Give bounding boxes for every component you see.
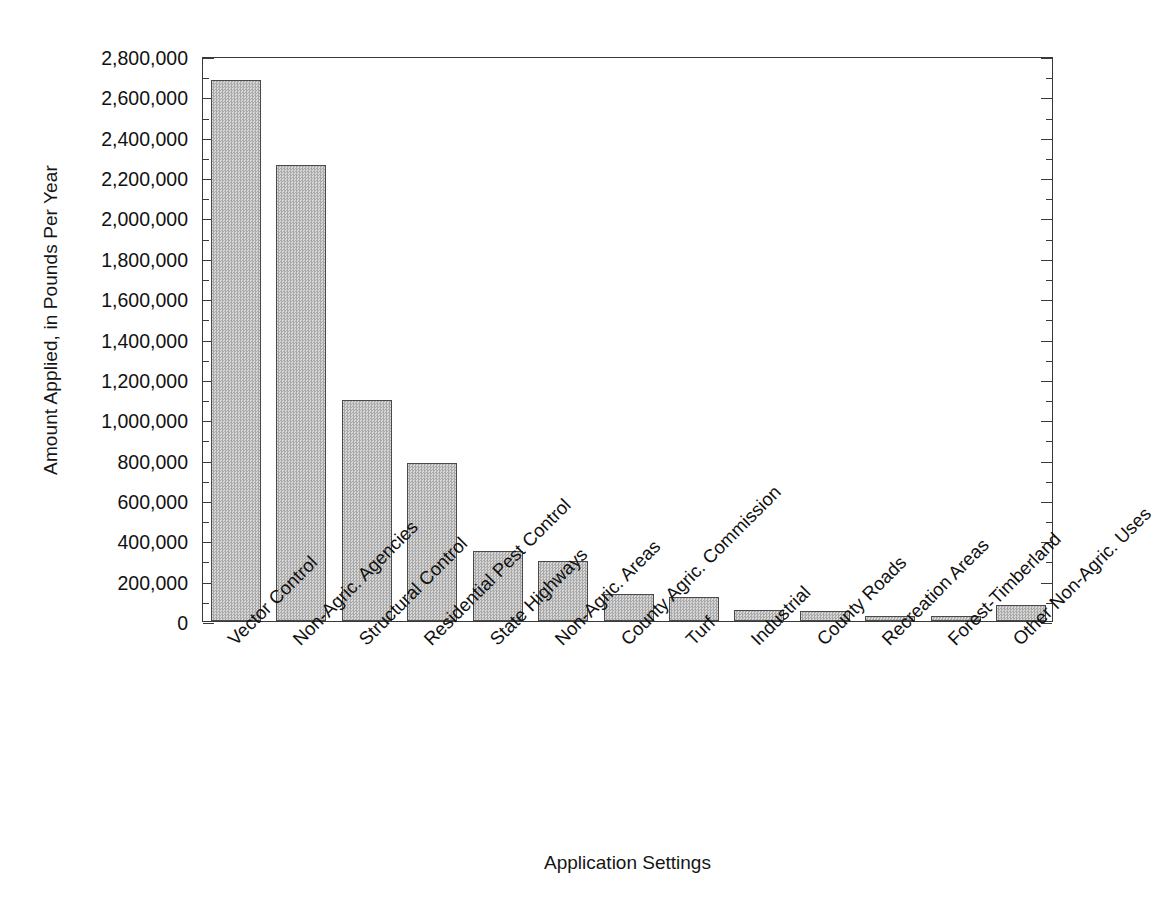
- x-axis-title: Application Settings: [202, 852, 1053, 874]
- y-tick-label: 2,400,000: [38, 130, 188, 150]
- plot-area: [202, 57, 1053, 622]
- y-tick-label: 2,200,000: [38, 170, 188, 190]
- y-tick-label: 1,800,000: [38, 251, 188, 271]
- y-tick-label: 1,400,000: [38, 332, 188, 352]
- y-axis-tick-labels: 2,800,0002,600,0002,400,0002,200,0002,00…: [38, 57, 188, 622]
- y-tick-label: 1,600,000: [38, 291, 188, 311]
- y-tick-label: 2,600,000: [38, 89, 188, 109]
- bars-layer: [203, 58, 1052, 621]
- y-tick-label: 200,000: [38, 574, 188, 594]
- y-tick-label: 2,800,000: [38, 49, 188, 69]
- y-tick-label: 800,000: [38, 453, 188, 473]
- y-tick-label: 2,000,000: [38, 210, 188, 230]
- y-tick-label: 1,200,000: [38, 372, 188, 392]
- y-tick-label: 600,000: [38, 493, 188, 513]
- bar: [211, 80, 261, 621]
- y-tick-label: 1,000,000: [38, 412, 188, 432]
- y-tick-label: 0: [38, 614, 188, 634]
- y-tick-label: 400,000: [38, 533, 188, 553]
- bar: [276, 165, 326, 621]
- x-axis-tick-labels: Vector ControlNon-Agric. AgenciesStructu…: [202, 622, 1053, 842]
